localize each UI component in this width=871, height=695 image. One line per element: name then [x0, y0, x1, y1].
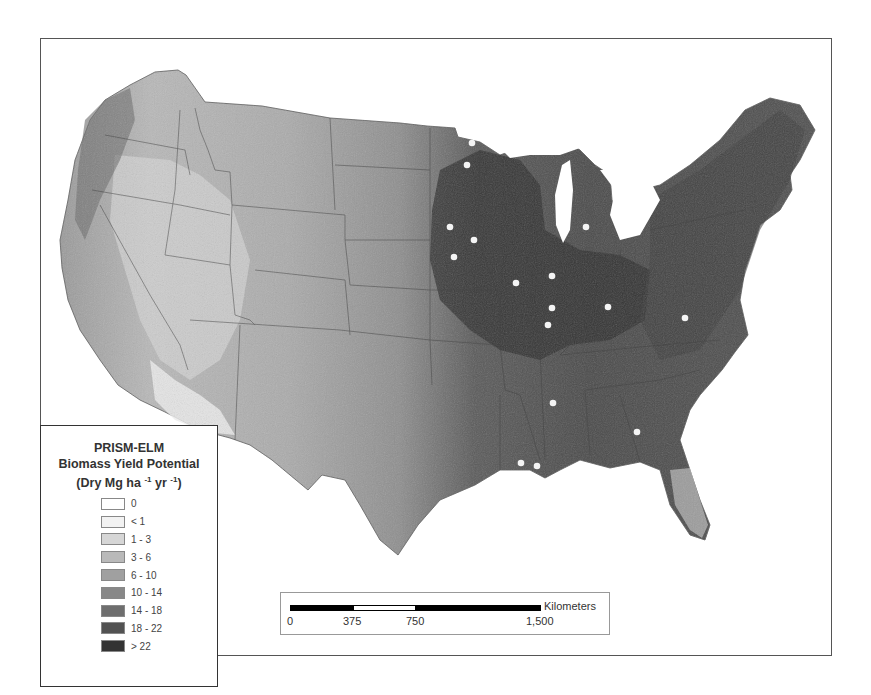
legend-item: 3 - 6 [101, 548, 162, 566]
site-marker [447, 224, 454, 231]
legend-label: > 22 [131, 641, 151, 652]
site-marker [469, 140, 476, 147]
scale-tick-375: 375 [343, 615, 361, 627]
legend-swatch [101, 622, 125, 634]
legend-swatch [101, 587, 125, 599]
legend-items: 0< 11 - 33 - 66 - 1010 - 1414 - 1818 - 2… [101, 495, 162, 655]
site-marker [534, 463, 541, 470]
legend-item: 18 - 22 [101, 620, 162, 638]
legend-label: 10 - 14 [131, 587, 162, 598]
scale-segment-750-1500 [416, 605, 541, 611]
legend-label: 6 - 10 [131, 570, 157, 581]
legend-swatch [101, 551, 125, 563]
legend-item: 6 - 10 [101, 566, 162, 584]
legend-swatch [101, 516, 125, 528]
site-marker [682, 315, 689, 322]
scale-bar: Kilometers 0 375 750 1,500 [280, 592, 610, 635]
site-marker [605, 304, 612, 311]
legend-title-model: PRISM-ELM [41, 440, 217, 456]
site-marker [583, 224, 590, 231]
scale-tick-1500: 1,500 [526, 615, 554, 627]
legend-item: 1 - 3 [101, 531, 162, 549]
scale-tick-0: 0 [287, 615, 293, 627]
legend-label: 1 - 3 [131, 534, 151, 545]
scale-unit-label: Kilometers [544, 600, 596, 612]
legend-item: 14 - 18 [101, 602, 162, 620]
site-marker [451, 254, 458, 261]
site-marker [471, 237, 478, 244]
legend-swatch [101, 640, 125, 652]
legend-swatch [101, 498, 125, 510]
legend-label: < 1 [131, 516, 145, 527]
site-marker [549, 305, 556, 312]
legend-label: 0 [131, 498, 137, 509]
site-marker [464, 162, 471, 169]
legend-swatch [101, 605, 125, 617]
site-marker [545, 322, 552, 329]
site-marker [513, 280, 520, 287]
legend-swatch [101, 569, 125, 581]
legend-label: 3 - 6 [131, 552, 151, 563]
legend-label: 18 - 22 [131, 623, 162, 634]
legend-swatch [101, 533, 125, 545]
scale-tick-750: 750 [406, 615, 424, 627]
legend-item: 0 [101, 495, 162, 513]
legend-title-units: (Dry Mg ha -1 yr -1) [41, 472, 217, 491]
site-marker [549, 273, 556, 280]
map-legend: PRISM-ELM Biomass Yield Potential (Dry M… [40, 425, 218, 687]
legend-item: > 22 [101, 637, 162, 655]
legend-label: 14 - 18 [131, 605, 162, 616]
site-marker [634, 429, 641, 436]
scale-segment-375-750 [353, 605, 416, 611]
legend-item: < 1 [101, 513, 162, 531]
site-marker [550, 400, 557, 407]
legend-title-variable: Biomass Yield Potential [41, 456, 217, 472]
site-marker [518, 460, 525, 467]
legend-title: PRISM-ELM Biomass Yield Potential (Dry M… [41, 440, 217, 491]
scale-segment-0-375 [290, 605, 353, 611]
legend-item: 10 - 14 [101, 584, 162, 602]
